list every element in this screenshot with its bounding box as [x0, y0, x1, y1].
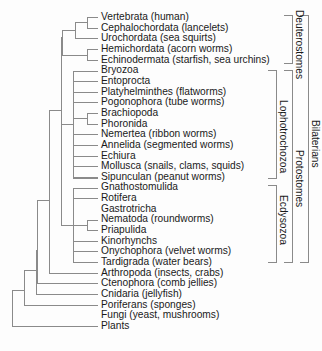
branch-vert-ceph [87, 17, 98, 28]
taxon-label: Kinorhynchs [101, 235, 157, 246]
taxon-label: Annelida (segmented worms) [101, 139, 234, 150]
taxon-label: Sipunculan (peanut worms) [101, 171, 225, 182]
taxon-label: Urochordata (sea squirts) [101, 32, 216, 43]
taxon-label: Echiura [101, 150, 136, 161]
group-label-bilaterians: Bilaterians [310, 120, 321, 168]
branch-priap-kino [87, 220, 98, 230]
group-label-deuterostomes: Deuterostomes [294, 10, 305, 79]
taxon-label: Gnathostomulida [101, 181, 178, 192]
taxon-label: Hemichordata (acorn worms) [101, 43, 232, 54]
taxon-label: Entoprocta [101, 75, 150, 86]
taxon-label: Bryozoa [101, 64, 138, 75]
branch-fungi [24, 270, 98, 305]
taxon-label: Phoronida [101, 118, 147, 129]
taxon-label: Cephalochordata (lancelets) [101, 22, 228, 33]
group-label-lophotrochozoa: Lophotrochozoa [278, 100, 289, 173]
branch-bilaterians [49, 37, 62, 124]
group-label-protostomes: Protostomes [294, 150, 305, 207]
bracket-ecdysozoa [268, 185, 276, 262]
taxon-label: Nematoda (roundworms) [101, 213, 214, 224]
branch-plants [12, 290, 98, 326]
branch-brach-phor [87, 113, 98, 124]
taxon-label: Rotifera [101, 192, 137, 203]
bracket-deuterostomes [284, 15, 292, 63]
bracket-lophotrochozoa [268, 70, 276, 178]
taxon-label: Priapulida [101, 224, 146, 235]
group-label-ecdysozoa: Ecdysozoa [278, 195, 289, 245]
branch-protostomes [61, 124, 73, 225]
taxon-label: Fungi (yeast, mushrooms) [101, 309, 219, 320]
taxon-label: Poriferans (sponges) [101, 299, 196, 310]
branch-ecdysozoa [73, 188, 98, 262]
taxon-label: Vertebrata (human) [101, 11, 189, 22]
taxon-label: Echinodermata (starfish, sea urchins) [101, 54, 270, 65]
taxon-label: Nemertea (ribbon worms) [101, 128, 217, 139]
taxon-label: Pogonophora (tube worms) [101, 96, 224, 107]
branch-hemi-echino [87, 49, 98, 60]
taxon-label: Platyhelminthes (flatworms) [101, 86, 226, 97]
taxon-label: Mollusca (snails, clams, squids) [101, 160, 244, 171]
taxon-label: Onychophora (velvet worms) [101, 245, 231, 256]
taxon-label: Ctenophora (comb jellies) [101, 277, 217, 288]
taxon-label: Arthropoda (insects, crabs) [101, 267, 223, 278]
taxon-label: Plants [101, 320, 129, 331]
taxon-label: Brachiopoda [101, 107, 158, 118]
branch-poriferans [36, 250, 98, 294]
taxon-label: Tardigrada (water bears) [101, 256, 212, 267]
taxon-label: Gastrotricha [101, 203, 156, 214]
taxon-label: Cnidaria (jellyfish) [101, 288, 182, 299]
